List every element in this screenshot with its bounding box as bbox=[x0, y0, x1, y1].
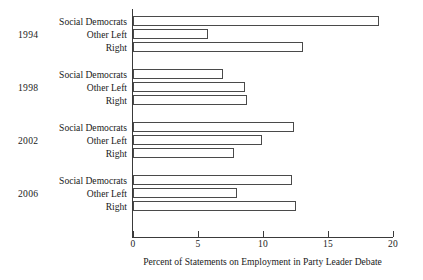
category-label: Social Democrats bbox=[59, 70, 127, 80]
x-tick-label: 5 bbox=[195, 239, 200, 249]
category-label: Right bbox=[106, 96, 127, 106]
bar bbox=[133, 122, 294, 132]
bar bbox=[133, 95, 247, 105]
x-tick-label: 10 bbox=[258, 239, 268, 249]
x-tick-mark bbox=[133, 231, 134, 237]
bar bbox=[133, 135, 262, 145]
x-tick-mark bbox=[328, 231, 329, 237]
category-label: Right bbox=[106, 149, 127, 159]
bar bbox=[133, 188, 237, 198]
bar-chart: 05101520 Social DemocratsOther LeftRight… bbox=[0, 0, 423, 280]
category-label: Right bbox=[106, 202, 127, 212]
bar bbox=[133, 82, 245, 92]
bar bbox=[133, 69, 223, 79]
x-tick-label: 0 bbox=[130, 239, 135, 249]
category-label: Social Democrats bbox=[59, 176, 127, 186]
bar bbox=[133, 29, 208, 39]
x-tick-label: 20 bbox=[388, 239, 398, 249]
bar bbox=[133, 201, 296, 211]
bar bbox=[133, 148, 234, 158]
x-tick-mark bbox=[263, 231, 264, 237]
category-label: Other Left bbox=[87, 83, 127, 93]
x-tick-mark bbox=[393, 231, 394, 237]
bar bbox=[133, 16, 379, 26]
category-label: Right bbox=[106, 43, 127, 53]
group-label-year: 1994 bbox=[18, 30, 38, 40]
bar bbox=[133, 175, 292, 185]
bar bbox=[133, 42, 303, 52]
group-label-year: 2006 bbox=[18, 189, 38, 199]
group-label-year: 1998 bbox=[18, 83, 38, 93]
category-label: Social Democrats bbox=[59, 17, 127, 27]
x-axis-title: Percent of Statements on Employment in P… bbox=[132, 256, 393, 267]
x-tick-label: 15 bbox=[323, 239, 333, 249]
x-tick-mark bbox=[198, 231, 199, 237]
category-label: Other Left bbox=[87, 30, 127, 40]
category-label: Social Democrats bbox=[59, 123, 127, 133]
plot-area: 05101520 Social DemocratsOther LeftRight… bbox=[0, 0, 423, 280]
category-label: Other Left bbox=[87, 136, 127, 146]
group-label-year: 2002 bbox=[18, 136, 38, 146]
category-label: Other Left bbox=[87, 189, 127, 199]
